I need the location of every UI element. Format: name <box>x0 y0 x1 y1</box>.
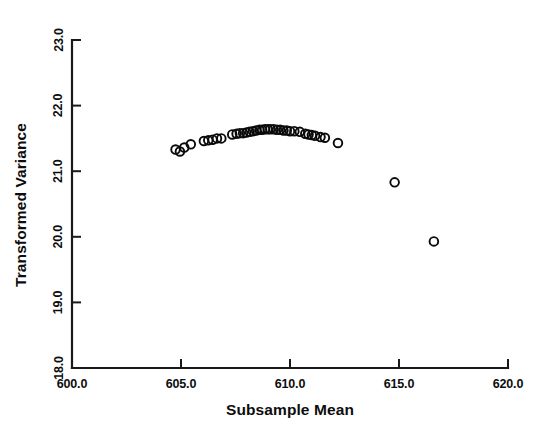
data-points <box>171 125 438 246</box>
y-tick-label: 20.0 <box>52 225 66 249</box>
x-axis-label: Subsample Mean <box>226 401 354 418</box>
y-tick-label: 18.0 <box>52 356 66 380</box>
x-tick-label: 605.0 <box>166 377 197 391</box>
axis-ticks <box>72 40 508 368</box>
data-point <box>334 139 343 148</box>
axis-tick-labels: 600.0605.0610.0615.0620.018.019.020.021.… <box>52 28 524 391</box>
x-tick-label: 615.0 <box>384 377 415 391</box>
y-tick-label: 21.0 <box>52 159 66 183</box>
y-tick-label: 22.0 <box>52 94 66 118</box>
data-point <box>430 237 439 246</box>
y-tick-label: 19.0 <box>52 290 66 314</box>
scatter-plot-figure: 600.0605.0610.0615.0620.018.019.020.021.… <box>0 0 547 430</box>
y-axis-label: Transformed Variance <box>12 123 29 287</box>
x-tick-label: 620.0 <box>493 377 524 391</box>
y-tick-label: 23.0 <box>52 28 66 52</box>
axes <box>72 40 508 368</box>
data-point <box>296 128 305 137</box>
x-tick-label: 610.0 <box>275 377 306 391</box>
data-point <box>390 178 399 187</box>
plot-canvas: 600.0605.0610.0615.0620.018.019.020.021.… <box>0 0 547 430</box>
